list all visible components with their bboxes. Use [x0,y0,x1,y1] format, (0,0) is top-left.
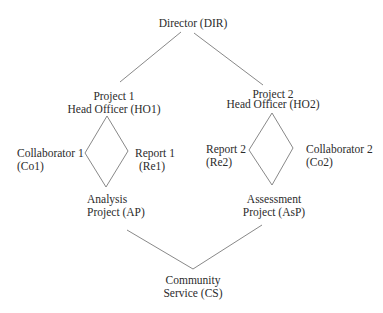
edge-asp-cs [193,225,262,269]
edge-ap-cs [127,230,193,269]
node-report-1: Report 1 (Re1) [135,147,175,173]
node-community-service: Community Service (CS) [163,274,222,300]
edge-dir-ho2 [194,33,263,85]
node-collaborator-1: Collaborator 1 (Co1) [17,147,84,173]
edge-dir-ho1 [120,32,181,82]
node-head-officer-1: Project 1 Head Officer (HO1) [67,90,160,116]
node-analysis-project: Analysis Project (AP) [87,193,145,219]
org-diagram: Director (DIR) Project 1 Head Officer (H… [0,0,383,313]
diamond-project-2 [249,113,293,185]
node-head-officer-2: Project 2 Head Officer (HO2) [226,89,319,109]
diamond-project-1 [85,116,128,187]
node-assessment-project: Assessment Project (AsP) [243,193,305,219]
node-report-2: Report 2 (Re2) [206,143,246,169]
node-collaborator-2: Collaborator 2 (Co2) [306,143,373,169]
node-director: Director (DIR) [159,17,228,30]
